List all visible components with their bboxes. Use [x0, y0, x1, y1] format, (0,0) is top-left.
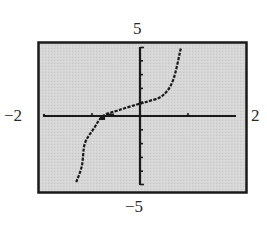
x-intercept-marker: [100, 115, 105, 120]
x-intercept-marker-trail: [106, 114, 114, 118]
graph-screen-background: [39, 43, 246, 192]
y-min-label: −5: [125, 198, 143, 215]
x-min-label: −2: [4, 107, 22, 124]
y-max-label: 5: [133, 20, 142, 37]
x-max-label: 2: [251, 107, 260, 124]
